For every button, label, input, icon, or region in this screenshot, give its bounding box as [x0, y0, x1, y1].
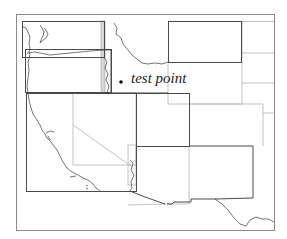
oregon-box — [26, 50, 112, 93]
utah-box — [137, 94, 190, 147]
light-boundaries — [73, 21, 274, 205]
test-point-label: test point — [131, 70, 186, 87]
dark-boundaries — [23, 22, 254, 205]
test-point-marker[interactable] — [119, 80, 123, 84]
map-canvas — [0, 0, 287, 239]
montana-wyoming-box — [169, 22, 242, 63]
coastline — [23, 23, 274, 226]
